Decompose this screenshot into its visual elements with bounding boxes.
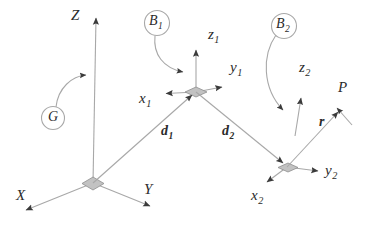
global-origin-marker xyxy=(82,177,104,190)
bubble-label-B1: B1 xyxy=(149,14,163,31)
axis-Z-line xyxy=(93,18,96,183)
axis-z2-line xyxy=(295,98,301,136)
body2-origin-marker xyxy=(278,163,298,172)
point-P-pointer-line xyxy=(337,108,352,125)
callout-arcs xyxy=(56,35,352,125)
point-label-P: P xyxy=(338,80,347,95)
axis-label-Z: Z xyxy=(71,8,79,23)
body1-frame-axes xyxy=(166,50,222,97)
vector-r-line xyxy=(287,112,338,167)
vector-label-r: r xyxy=(319,115,324,129)
axis-label-y2: y2 xyxy=(325,163,337,181)
bubble-label-G: G xyxy=(48,110,58,124)
arc-G-to-Z-axis-path xyxy=(56,75,86,107)
body2-frame-axes xyxy=(267,98,318,182)
axis-label-x1: x1 xyxy=(139,91,151,109)
axis-X-line xyxy=(26,183,93,210)
axis-label-X: X xyxy=(16,188,25,203)
axis-label-x2: x2 xyxy=(251,188,263,206)
bubble-label-B2: B2 xyxy=(276,17,290,34)
vector-label-d1: d1 xyxy=(161,124,173,141)
arc-B1-to-origin1-path xyxy=(155,36,183,72)
axis-Y-line xyxy=(93,183,150,206)
vector-d2-line xyxy=(196,92,283,163)
axis-label-Y: Y xyxy=(144,182,152,197)
axis-label-z1: z1 xyxy=(208,27,219,45)
vector-label-d2: d2 xyxy=(222,124,234,141)
frame-bubbles xyxy=(42,11,297,130)
axis-label-y1: y1 xyxy=(230,60,242,78)
axis-label-z2: z2 xyxy=(299,60,310,78)
kinematics-diagram: Z X Y G B1 B2 z1 y1 x1 z2 y2 x2 d1 d2 r xyxy=(0,0,373,230)
arc-B2-to-origin2-path xyxy=(266,35,283,110)
